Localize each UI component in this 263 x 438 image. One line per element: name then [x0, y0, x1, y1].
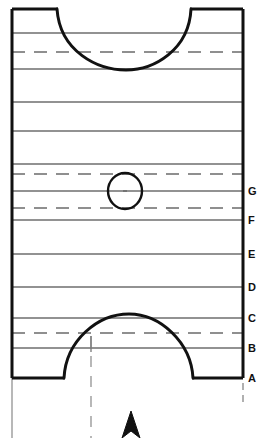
level-label-b: B — [248, 343, 256, 354]
section-drawing-svg — [0, 0, 263, 438]
level-label-g: G — [248, 186, 257, 197]
level-label-e: E — [248, 249, 255, 260]
engineering-drawing-canvas: G F E D C B A — [0, 0, 263, 438]
level-label-a: A — [248, 373, 256, 384]
drawing-background — [0, 0, 263, 438]
level-label-c: C — [248, 313, 256, 324]
level-label-d: D — [248, 282, 256, 293]
level-label-f: F — [248, 215, 255, 226]
